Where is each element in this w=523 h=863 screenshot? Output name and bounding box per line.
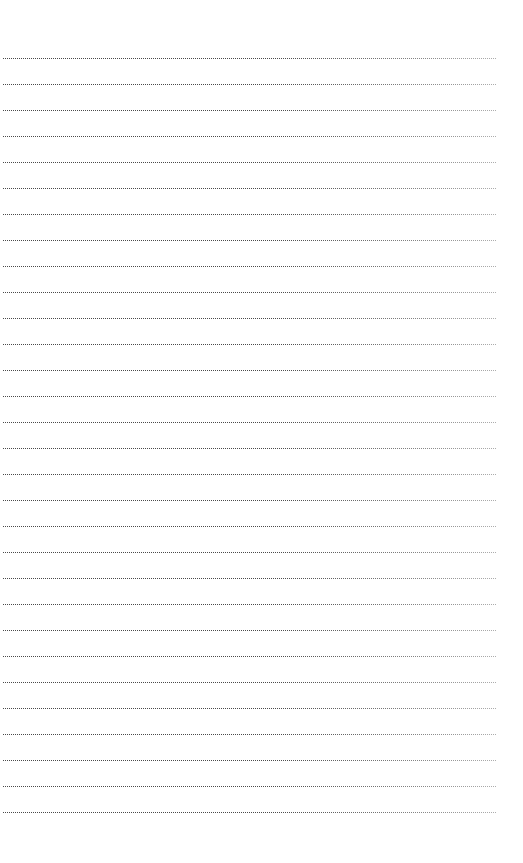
ruled-line[interactable]	[0, 448, 523, 474]
ruled-line[interactable]	[0, 734, 523, 760]
ruled-line-text[interactable]	[3, 787, 497, 812]
ruled-line[interactable]	[0, 500, 523, 526]
ruled-line-text[interactable]	[3, 631, 497, 656]
ruled-line-text[interactable]	[3, 111, 497, 136]
ruled-line[interactable]	[0, 292, 523, 318]
ruled-line[interactable]	[0, 656, 523, 682]
ruled-line-text[interactable]	[3, 501, 497, 526]
ruled-line[interactable]	[0, 578, 523, 604]
ruled-line[interactable]	[0, 474, 523, 500]
ruled-line[interactable]	[0, 760, 523, 786]
ruled-line[interactable]	[0, 318, 523, 344]
ruled-line-text[interactable]	[3, 553, 497, 578]
ruled-line[interactable]	[0, 136, 523, 162]
ruled-line-text[interactable]	[3, 475, 497, 500]
ruled-line-text[interactable]	[3, 293, 497, 318]
ruled-line-text[interactable]	[3, 163, 497, 188]
ruled-line[interactable]	[0, 84, 523, 110]
ruled-line-text[interactable]	[3, 215, 497, 240]
ruled-line-text[interactable]	[3, 657, 497, 682]
ruled-line[interactable]	[0, 162, 523, 188]
ruled-line[interactable]	[0, 526, 523, 552]
ruled-line-text[interactable]	[3, 85, 497, 110]
ruled-line-text[interactable]	[3, 683, 497, 708]
ruled-line-text[interactable]	[3, 449, 497, 474]
ruled-line[interactable]	[0, 240, 523, 266]
ruled-line-text[interactable]	[3, 527, 497, 552]
ruled-line-text[interactable]	[3, 319, 497, 344]
ruled-line[interactable]	[0, 58, 523, 84]
ruled-line[interactable]	[0, 786, 523, 812]
ruled-line[interactable]	[0, 266, 523, 292]
ruled-line-text[interactable]	[3, 241, 497, 266]
bottom-margin	[0, 815, 523, 863]
ruled-line[interactable]	[0, 188, 523, 214]
ruled-line[interactable]	[0, 682, 523, 708]
ruled-line-text[interactable]	[3, 371, 497, 396]
ruled-line[interactable]	[0, 630, 523, 656]
ruled-line[interactable]	[0, 604, 523, 630]
ruled-writing-area[interactable]	[0, 0, 523, 863]
ruled-line-text[interactable]	[3, 137, 497, 162]
ruled-line-text[interactable]	[3, 59, 497, 84]
ruled-line-text[interactable]	[3, 345, 497, 370]
ruled-line[interactable]	[0, 708, 523, 734]
ruled-line-text[interactable]	[3, 761, 497, 786]
ruled-line[interactable]	[0, 370, 523, 396]
ruled-line[interactable]	[0, 214, 523, 240]
ruled-line-text[interactable]	[3, 397, 497, 422]
ruled-line-text[interactable]	[3, 735, 497, 760]
ruled-line[interactable]	[0, 552, 523, 578]
ruled-line[interactable]	[0, 396, 523, 422]
ruled-line-text[interactable]	[3, 267, 497, 292]
ruled-line-text[interactable]	[3, 605, 497, 630]
ruled-line-text[interactable]	[3, 189, 497, 214]
notepad-page	[0, 0, 523, 863]
ruled-line-text[interactable]	[3, 579, 497, 604]
ruled-line[interactable]	[0, 422, 523, 448]
ruled-line[interactable]	[0, 344, 523, 370]
ruled-line[interactable]	[0, 110, 523, 136]
ruled-line-text[interactable]	[3, 423, 497, 448]
ruled-line-text[interactable]	[3, 709, 497, 734]
